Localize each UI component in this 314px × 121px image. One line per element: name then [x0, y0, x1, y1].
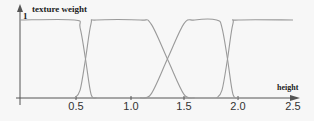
- x-tick-2.0: 2.0: [230, 100, 245, 112]
- y-tick-1: 1: [23, 11, 28, 21]
- x-tick-1.0: 1.0: [123, 100, 138, 112]
- x-tick-0.5: 0.5: [68, 100, 83, 112]
- curves: [20, 19, 293, 98]
- texture-weight-chart: [0, 0, 314, 121]
- x-axis-label: height: [277, 83, 298, 92]
- x-tick-1.5: 1.5: [176, 100, 191, 112]
- x-tick-2.5: 2.5: [285, 100, 300, 112]
- y-axis-label: texture weight: [32, 4, 87, 14]
- curve-1: [20, 19, 96, 98]
- curve-2: [75, 19, 195, 98]
